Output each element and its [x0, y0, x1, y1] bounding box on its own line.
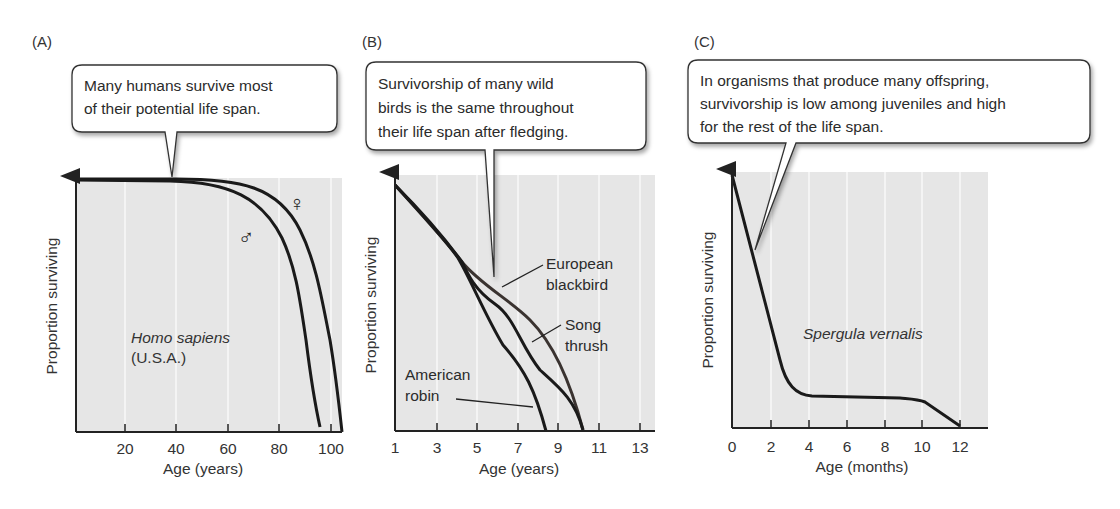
panel-a: (A) 20 40 60 80 100 Age	[32, 33, 344, 477]
female-symbol-icon: ♀	[289, 191, 306, 216]
tick-label: 20	[116, 440, 134, 457]
tick-label: 0	[728, 438, 737, 455]
robin-label: robin	[405, 387, 439, 404]
panel-a-tick-labels: 20 40 60 80 100	[116, 440, 344, 457]
panel-c-x-axis-title: Age (months)	[815, 458, 908, 475]
panel-a-label: (A)	[32, 33, 52, 50]
robin-label: American	[405, 366, 470, 383]
tick-label: 5	[473, 439, 482, 456]
panel-b-tick-labels: 1 3 5 7 9 11 13	[391, 439, 649, 456]
tick-label: 9	[554, 439, 563, 456]
panel-c: (C) Spergula vernalis 0 2 4 6	[688, 33, 1090, 475]
tick-label: 3	[433, 439, 442, 456]
thrush-label: Song	[565, 316, 601, 333]
tick-label: 40	[167, 440, 185, 457]
callout-line: Survivorship of many wild	[378, 75, 554, 92]
callout-line: Many humans survive most	[84, 77, 273, 94]
tick-label: 2	[767, 438, 776, 455]
callout-line: for the rest of the life span.	[700, 118, 884, 135]
callout-line: of their potential life span.	[84, 100, 261, 117]
panel-a-x-axis-title: Age (years)	[163, 460, 243, 477]
male-symbol-icon: ♂	[238, 225, 255, 250]
panel-c-species-label: Spergula vernalis	[803, 325, 923, 342]
blackbird-label: European	[546, 255, 613, 272]
callout-line: birds is the same throughout	[378, 99, 574, 116]
tick-label: 10	[913, 438, 931, 455]
tick-label: 7	[514, 439, 523, 456]
survivorship-figure: (A) 20 40 60 80 100 Age	[0, 0, 1120, 509]
tick-label: 60	[219, 440, 237, 457]
tick-label: 13	[631, 439, 648, 456]
panel-a-callout: Many humans survive most of their potent…	[72, 65, 337, 177]
panel-b: (B) European blackbird Song thrush Ameri…	[362, 33, 655, 477]
blackbird-label: blackbird	[546, 276, 608, 293]
panel-b-label: (B)	[362, 33, 382, 50]
panel-c-label: (C)	[694, 33, 715, 50]
tick-label: 11	[591, 439, 607, 456]
panel-c-tick-labels: 0 2 4 6 8 10 12	[728, 438, 969, 455]
panel-b-y-axis-title: Proportion surviving	[362, 237, 379, 374]
tick-label: 100	[318, 440, 344, 457]
callout-line: survivorship is low among juveniles and …	[700, 95, 1006, 112]
tick-label: 12	[951, 438, 968, 455]
panel-a-species-sub: (U.S.A.)	[131, 349, 186, 366]
callout-line: In organisms that produce many offspring…	[700, 72, 989, 89]
panel-b-x-axis-title: Age (years)	[479, 460, 559, 477]
tick-label: 1	[391, 439, 400, 456]
panel-a-y-axis-title: Proportion surviving	[43, 238, 60, 375]
thrush-label: thrush	[565, 337, 608, 354]
tick-label: 6	[843, 438, 852, 455]
panel-a-species-label: Homo sapiens	[131, 329, 230, 346]
panel-c-y-axis-title: Proportion surviving	[699, 232, 716, 369]
tick-label: 80	[270, 440, 288, 457]
tick-label: 4	[805, 438, 814, 455]
callout-line: their life span after fledging.	[378, 123, 568, 140]
tick-label: 8	[881, 438, 890, 455]
